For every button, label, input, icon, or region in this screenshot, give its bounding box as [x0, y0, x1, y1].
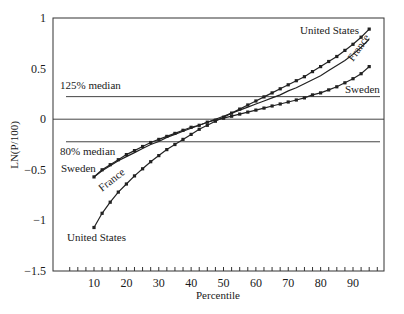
data-point-sweden: [92, 175, 95, 178]
series-sweden: [92, 65, 370, 179]
series-united-states: [92, 28, 370, 230]
y-axis: 10.50−0.5−1−1.5: [24, 11, 46, 278]
data-point-sweden: [303, 96, 306, 99]
data-point-sweden: [287, 100, 290, 103]
x-tick-label: 20: [120, 276, 132, 290]
data-point-united-states: [327, 60, 330, 63]
annotation-united-states-top: United States: [300, 24, 359, 36]
annotation-sweden-right: Sweden: [345, 83, 380, 95]
data-point-sweden: [238, 113, 241, 116]
x-tick-label: 80: [315, 276, 327, 290]
x-axis-title: Percentile: [196, 289, 240, 301]
annotation-united-states-bottom: United States: [67, 231, 126, 243]
data-point-united-states: [141, 167, 144, 170]
chart: 102030405060708090 10.50−0.5−1−1.5 Perce…: [0, 0, 404, 314]
data-point-sweden: [262, 107, 265, 110]
x-axis: 102030405060708090: [70, 267, 378, 290]
data-point-united-states: [133, 174, 136, 177]
data-point-sweden: [319, 91, 322, 94]
y-tick-label: 0.5: [31, 62, 46, 76]
data-point-sweden: [157, 138, 160, 141]
data-point-sweden: [190, 126, 193, 129]
data-point-sweden: [198, 124, 201, 127]
data-point-sweden: [206, 121, 209, 124]
data-point-sweden: [117, 158, 120, 161]
y-tick-label: 0: [40, 112, 46, 126]
data-point-sweden: [181, 129, 184, 132]
ref-label-125-median: 125% median: [60, 79, 121, 91]
data-point-united-states: [311, 70, 314, 73]
data-point-united-states: [319, 65, 322, 68]
data-point-sweden: [279, 102, 282, 105]
data-point-united-states: [198, 128, 201, 131]
data-point-united-states: [149, 160, 152, 163]
data-point-united-states: [125, 182, 128, 185]
data-point-united-states: [254, 99, 257, 102]
y-tick-label: −1: [33, 213, 46, 227]
data-point-united-states: [92, 226, 95, 229]
data-point-united-states: [190, 133, 193, 136]
data-point-united-states: [368, 28, 371, 31]
x-tick-label: 70: [282, 276, 294, 290]
data-point-sweden: [335, 85, 338, 88]
data-point-sweden: [173, 132, 176, 135]
data-point-united-states: [343, 49, 346, 52]
data-point-sweden: [133, 149, 136, 152]
y-tick-label: −0.5: [24, 163, 46, 177]
data-point-united-states: [335, 55, 338, 58]
data-point-united-states: [206, 124, 209, 127]
data-point-sweden: [351, 77, 354, 80]
data-point-sweden: [230, 115, 233, 118]
y-tick-label: −1.5: [24, 264, 46, 278]
data-point-sweden: [214, 119, 217, 122]
data-point-united-states: [109, 201, 112, 204]
data-point-sweden: [311, 93, 314, 96]
data-point-sweden: [125, 153, 128, 156]
data-point-sweden: [295, 98, 298, 101]
x-tick-label: 30: [153, 276, 165, 290]
data-point-united-states: [262, 95, 265, 98]
data-point-united-states: [157, 154, 160, 157]
data-point-united-states: [295, 79, 298, 82]
data-point-sweden: [360, 72, 363, 75]
data-point-united-states: [271, 91, 274, 94]
data-point-sweden: [254, 109, 257, 112]
data-point-united-states: [117, 191, 120, 194]
series-layer: [92, 28, 370, 230]
x-tick-label: 40: [185, 276, 197, 290]
data-point-sweden: [141, 145, 144, 148]
data-point-sweden: [222, 117, 225, 120]
x-tick-label: 90: [347, 276, 359, 290]
data-point-united-states: [101, 212, 104, 215]
series-line-sweden: [94, 67, 369, 177]
y-axis-title: LN(P/100): [8, 121, 21, 169]
data-point-united-states: [279, 87, 282, 90]
x-tick-label: 10: [88, 276, 100, 290]
x-tick-label: 50: [218, 276, 230, 290]
data-point-sweden: [246, 111, 249, 114]
data-point-sweden: [109, 163, 112, 166]
y-tick-label: 1: [40, 11, 46, 25]
ref-label-80-median: 80% median: [60, 145, 116, 157]
data-point-sweden: [368, 65, 371, 68]
data-point-sweden: [101, 168, 104, 171]
annotation-sweden-left: Sweden: [61, 162, 96, 174]
series-line-united-states: [94, 29, 369, 227]
data-point-united-states: [165, 148, 168, 151]
data-point-sweden: [327, 88, 330, 91]
data-point-sweden: [149, 141, 152, 144]
data-point-united-states: [287, 83, 290, 86]
data-point-sweden: [271, 104, 274, 107]
data-point-sweden: [165, 135, 168, 138]
data-point-united-states: [173, 143, 176, 146]
x-tick-label: 60: [250, 276, 262, 290]
data-point-united-states: [303, 75, 306, 78]
data-point-united-states: [181, 138, 184, 141]
